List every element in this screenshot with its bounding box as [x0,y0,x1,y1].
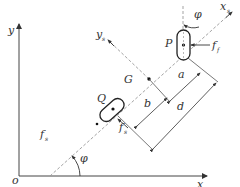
label-dim-d: d [177,100,184,113]
label-point-p: P [164,37,173,50]
label-x-axis: x [197,178,204,187]
point-q-dot [111,107,114,110]
label-dim-b: b [144,97,151,110]
label-xs: x [220,0,227,13]
dim-d [153,83,216,149]
label-phi: φ [80,152,88,165]
label-force-fs-sub: s [124,128,127,135]
ys-arrowhead [108,40,114,46]
label-varphi: φ [194,8,202,21]
dim-a [170,73,200,101]
label-ys-sub: s [102,35,105,42]
vehicle-kinematics-diagram: y x o x s y s P Q G f f f s f s φ φ a b … [0,0,240,187]
label-origin: o [12,174,19,187]
perp-p [188,58,218,82]
label-point-g: G [124,73,133,86]
label-y-axis: y [7,24,15,37]
label-point-q: Q [97,92,106,105]
label-force-fs-left-sub: s [45,135,48,142]
dim-b [137,98,167,126]
xs-axis-dashed [50,12,232,176]
point-q-front-dot [96,123,99,126]
label-xs-sub: s [227,7,230,14]
varphi-arc [184,25,199,28]
phi-arc [72,156,80,176]
label-force-ff-sub: f [216,46,221,54]
diagram-svg: y x o x s y s P Q G f f f s f s φ φ a b … [0,0,240,187]
label-dim-a: a [178,68,185,81]
